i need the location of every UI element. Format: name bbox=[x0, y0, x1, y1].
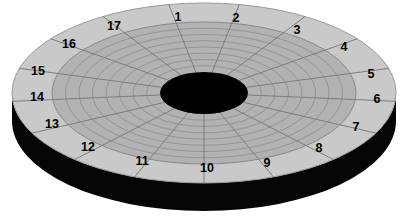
sector-17[interactable]: 17 bbox=[107, 19, 121, 33]
sector-2[interactable]: 2 bbox=[233, 11, 240, 25]
sector-label-3: 3 bbox=[294, 23, 301, 37]
sector-9[interactable]: 9 bbox=[264, 156, 271, 170]
sector-16[interactable]: 16 bbox=[62, 37, 76, 51]
sector-3[interactable]: 3 bbox=[294, 23, 301, 37]
sector-label-16: 16 bbox=[62, 37, 76, 51]
sector-label-4: 4 bbox=[341, 40, 348, 54]
sector-1[interactable]: 1 bbox=[175, 10, 182, 24]
sector-6[interactable]: 6 bbox=[374, 92, 381, 106]
sector-label-10: 10 bbox=[200, 161, 214, 175]
sector-14[interactable]: 14 bbox=[30, 90, 44, 104]
sector-7[interactable]: 7 bbox=[353, 120, 360, 134]
sector-4[interactable]: 4 bbox=[341, 40, 348, 54]
sector-8[interactable]: 8 bbox=[316, 141, 323, 155]
sector-label-8: 8 bbox=[316, 141, 323, 155]
sector-label-1: 1 bbox=[175, 10, 182, 24]
sector-5[interactable]: 5 bbox=[368, 67, 375, 81]
sector-label-17: 17 bbox=[107, 19, 121, 33]
sector-15[interactable]: 15 bbox=[31, 64, 45, 78]
sector-label-11: 11 bbox=[135, 154, 148, 168]
sectored-disk-figure: 1234567891011121314151617 bbox=[0, 0, 406, 216]
sector-label-6: 6 bbox=[374, 92, 381, 106]
sector-label-2: 2 bbox=[233, 11, 240, 25]
sector-10[interactable]: 10 bbox=[200, 161, 214, 175]
sector-label-13: 13 bbox=[45, 117, 59, 131]
sector-label-15: 15 bbox=[31, 64, 45, 78]
center-hole bbox=[160, 72, 248, 114]
sector-11[interactable]: 11 bbox=[135, 154, 148, 168]
sector-label-5: 5 bbox=[368, 67, 375, 81]
sector-13[interactable]: 13 bbox=[45, 117, 59, 131]
sector-12[interactable]: 12 bbox=[81, 140, 95, 154]
sector-label-14: 14 bbox=[30, 90, 44, 104]
sector-label-12: 12 bbox=[81, 140, 95, 154]
sector-label-9: 9 bbox=[264, 156, 271, 170]
disk-diagram-canvas: 1234567891011121314151617 bbox=[0, 0, 406, 216]
sector-label-7: 7 bbox=[353, 120, 360, 134]
